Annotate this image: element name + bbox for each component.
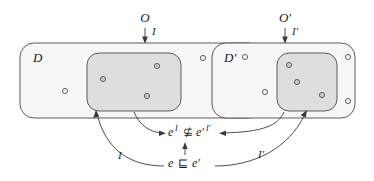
left-outer-label: D bbox=[32, 50, 43, 65]
dot bbox=[286, 62, 291, 67]
lower-relation-lhs: e bbox=[168, 156, 174, 170]
dot bbox=[345, 98, 350, 103]
upper-relation-rhs-sup: I′ bbox=[205, 124, 211, 133]
right-source-label: O′ bbox=[279, 10, 291, 25]
lower-relation: e ⊑ e′ bbox=[168, 156, 200, 170]
right-curve-label: I′ bbox=[257, 148, 265, 160]
dot bbox=[319, 92, 324, 97]
relation-implication-arrow bbox=[182, 142, 187, 155]
dot bbox=[100, 76, 105, 81]
upper-relation-lhs-sup: I bbox=[174, 124, 178, 133]
upper-relation-rhs: e′ bbox=[196, 125, 204, 139]
dot bbox=[154, 63, 159, 68]
diagram-canvas: O I D bbox=[0, 0, 374, 181]
lower-relation-operator: ⊑ bbox=[178, 156, 188, 170]
right-inner-box bbox=[277, 53, 337, 111]
dot bbox=[242, 54, 247, 59]
right-input-arrow-label: I′ bbox=[291, 25, 299, 37]
right-group: O′ I′ D′ bbox=[212, 10, 355, 118]
right-outer-label: D′ bbox=[223, 50, 236, 65]
upper-relation-lhs: e bbox=[168, 125, 174, 139]
lower-relation-rhs: e′ bbox=[192, 156, 200, 170]
dot bbox=[345, 54, 350, 59]
left-inner-box bbox=[87, 53, 181, 111]
right-input-arrow bbox=[282, 28, 288, 44]
dot bbox=[294, 79, 299, 84]
left-curve-label: I bbox=[117, 149, 123, 161]
left-source-label: O bbox=[140, 10, 150, 25]
dot bbox=[62, 88, 67, 93]
upper-relation: e I ⊈ e′ I′ bbox=[168, 124, 211, 139]
dot bbox=[144, 93, 149, 98]
dot bbox=[200, 55, 205, 60]
upper-relation-operator: ⊈ bbox=[183, 125, 193, 139]
left-input-arrow bbox=[142, 28, 148, 44]
dot bbox=[262, 89, 267, 94]
left-input-arrow-label: I bbox=[151, 25, 157, 37]
